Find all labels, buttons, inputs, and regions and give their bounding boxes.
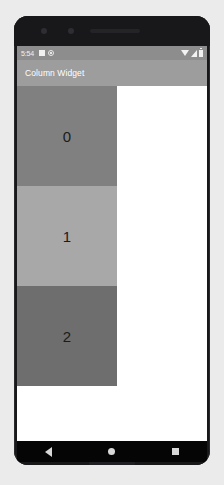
app-bar-title: Column Widget (25, 68, 84, 78)
status-bar: 5:54 (17, 46, 207, 60)
column-box-label: 1 (63, 229, 71, 244)
back-button[interactable] (45, 447, 52, 457)
home-button[interactable] (108, 448, 115, 455)
proximity-sensor-icon (68, 28, 74, 34)
front-camera-icon (41, 28, 47, 34)
column-box-label: 2 (63, 329, 71, 344)
app-content-area: 0 1 2 (17, 86, 207, 425)
phone-top-bezel (14, 16, 210, 46)
phone-screen: 5:54 Column Widget 0 1 (17, 46, 207, 441)
column-box[interactable]: 0 (17, 86, 117, 186)
column-box[interactable]: 1 (17, 186, 117, 286)
phone-device-frame: 5:54 Column Widget 0 1 (14, 16, 210, 465)
recents-button[interactable] (172, 448, 179, 455)
cellular-signal-icon (191, 50, 197, 57)
notification-square-icon (39, 50, 45, 56)
status-bar-system-icons (181, 50, 203, 57)
wifi-icon (181, 50, 189, 56)
notification-circle-icon (48, 50, 54, 56)
column-widget: 0 1 2 (17, 86, 117, 386)
status-bar-notification-icons (39, 50, 54, 56)
column-box-label: 0 (63, 129, 71, 144)
battery-icon (199, 50, 203, 57)
status-bar-time: 5:54 (21, 50, 34, 57)
device-brand-mark (89, 462, 135, 465)
earpiece-speaker-grille (90, 29, 140, 33)
column-box[interactable]: 2 (17, 286, 117, 386)
phone-bottom-bezel (14, 462, 210, 465)
android-navigation-bar (17, 441, 207, 462)
app-bar: Column Widget (17, 60, 207, 86)
